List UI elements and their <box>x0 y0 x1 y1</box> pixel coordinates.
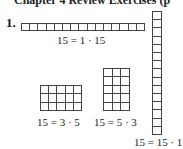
grid-cell <box>153 12 162 20</box>
grid-cell <box>129 24 137 31</box>
grid-cell <box>57 103 65 111</box>
grid-cell <box>57 86 65 94</box>
grid-cell <box>88 24 96 31</box>
grid-cell <box>66 94 74 102</box>
grid-cell <box>38 24 46 31</box>
grid-cell <box>74 94 82 102</box>
grid-cell <box>113 94 122 102</box>
grid-cell <box>104 69 113 77</box>
grid-cell <box>120 24 128 31</box>
grid-cell <box>153 78 162 86</box>
grid-cell <box>96 24 104 31</box>
grid-cell <box>74 86 82 94</box>
rectangle-5-by-3 <box>103 68 130 111</box>
grid-cell <box>112 24 120 31</box>
rectangle-15-by-1 <box>152 11 162 135</box>
grid-cell <box>153 86 162 94</box>
grid-cell <box>121 77 130 85</box>
grid-cell <box>104 86 113 94</box>
grid-cell <box>49 94 57 102</box>
rectangle-3-by-5 <box>40 85 82 111</box>
grid-cell <box>104 94 113 102</box>
grid-cell <box>55 24 63 31</box>
grid-cell <box>57 94 65 102</box>
grid-cell <box>113 69 122 77</box>
grid-cell <box>113 77 122 85</box>
label-1-by-15: 15 = 1 · 15 <box>57 34 105 46</box>
grid-cell <box>121 86 130 94</box>
grid-cell <box>49 86 57 94</box>
grid-cell <box>153 69 162 77</box>
grid-cell <box>153 119 162 127</box>
label-5-by-3: 15 = 5 · 3 <box>94 116 137 128</box>
grid-cell <box>63 24 71 31</box>
grid-cell <box>153 28 162 36</box>
exercise-number: 1. <box>6 15 16 31</box>
grid-cell <box>113 86 122 94</box>
label-15-by-1: 15 = 15 · 1 <box>134 136 182 148</box>
grid-cell <box>66 103 74 111</box>
grid-cell <box>71 24 79 31</box>
grid-cell <box>49 103 57 111</box>
grid-cell <box>66 86 74 94</box>
grid-cell <box>41 94 49 102</box>
section-header: Chapter 4 Review Exercises (p <box>14 0 170 8</box>
grid-cell <box>41 103 49 111</box>
grid-cell <box>153 102 162 110</box>
grid-cell <box>47 24 55 31</box>
grid-cell <box>137 24 145 31</box>
grid-cell <box>153 127 162 135</box>
grid-cell <box>121 94 130 102</box>
grid-cell <box>74 103 82 111</box>
label-3-by-5: 15 = 3 · 5 <box>37 116 80 128</box>
grid-cell <box>153 20 162 28</box>
grid-cell <box>104 24 112 31</box>
grid-cell <box>79 24 87 31</box>
grid-cell <box>153 37 162 45</box>
grid-cell <box>153 61 162 69</box>
grid-cell <box>104 77 113 85</box>
grid-cell <box>30 24 38 31</box>
grid-cell <box>153 53 162 61</box>
grid-cell <box>104 103 113 111</box>
grid-cell <box>121 103 130 111</box>
grid-cell <box>153 110 162 118</box>
grid-cell <box>22 24 30 31</box>
grid-cell <box>121 69 130 77</box>
grid-cell <box>113 103 122 111</box>
grid-cell <box>153 94 162 102</box>
rectangle-1-by-15 <box>21 23 145 31</box>
grid-cell <box>153 45 162 53</box>
grid-cell <box>41 86 49 94</box>
